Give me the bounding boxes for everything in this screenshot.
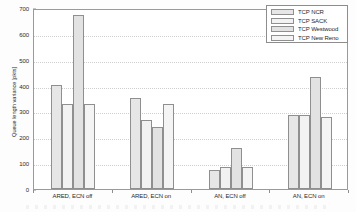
legend-swatch-icon xyxy=(271,9,294,15)
x-group-label: ARED, ECN off xyxy=(53,193,93,199)
legend-item[interactable]: TCP New Reno xyxy=(269,34,345,42)
legend-item[interactable]: TCP NCR xyxy=(269,8,345,16)
bar xyxy=(130,98,141,189)
x-tick-mark xyxy=(33,190,34,193)
x-tick-mark xyxy=(348,190,349,193)
legend-label: TCP New Reno xyxy=(298,35,338,41)
bar xyxy=(310,77,321,189)
x-tick-mark xyxy=(269,190,270,193)
bar xyxy=(242,167,253,189)
bar xyxy=(62,104,73,189)
scan-artifact xyxy=(26,205,326,209)
x-group-label: AN, ECN on xyxy=(293,193,325,199)
bar xyxy=(152,127,163,189)
legend-label: TCP Westwood xyxy=(298,26,338,32)
y-tick-label: 300 xyxy=(19,109,29,115)
bar xyxy=(51,85,62,189)
y-tick-label: 700 xyxy=(19,6,29,12)
figure-canvas: Queue length variance [pkts] 01002003004… xyxy=(0,0,356,212)
bar xyxy=(73,15,84,189)
bar xyxy=(163,104,174,189)
legend-label: TCP NCR xyxy=(298,9,324,15)
y-axis: 0100200300400500600700 xyxy=(0,0,33,212)
y-tick-label: 400 xyxy=(19,84,29,90)
y-tick-label: 0 xyxy=(26,187,29,193)
x-group-label: AN, ECN off xyxy=(214,193,245,199)
x-tick-mark xyxy=(191,190,192,193)
legend-label: TCP SACK xyxy=(298,18,327,24)
bar xyxy=(288,115,299,189)
legend-item[interactable]: TCP Westwood xyxy=(269,25,345,33)
bar xyxy=(84,104,95,189)
bar xyxy=(220,167,231,189)
x-tick-mark xyxy=(112,190,113,193)
y-tick-label: 600 xyxy=(19,32,29,38)
chart-legend[interactable]: TCP NCRTCP SACKTCP WestwoodTCP New Reno xyxy=(266,5,348,43)
y-tick-label: 500 xyxy=(19,58,29,64)
y-tick-label: 100 xyxy=(19,161,29,167)
bar xyxy=(209,170,220,189)
bar xyxy=(321,117,332,189)
legend-item[interactable]: TCP SACK xyxy=(269,17,345,25)
bar xyxy=(299,115,310,189)
bar xyxy=(141,120,152,189)
legend-swatch-icon xyxy=(271,35,294,41)
bar xyxy=(231,148,242,189)
y-tick-label: 200 xyxy=(19,135,29,141)
legend-swatch-icon xyxy=(271,18,294,24)
x-group-label: ARED, ECN on xyxy=(131,193,171,199)
legend-swatch-icon xyxy=(271,26,294,32)
